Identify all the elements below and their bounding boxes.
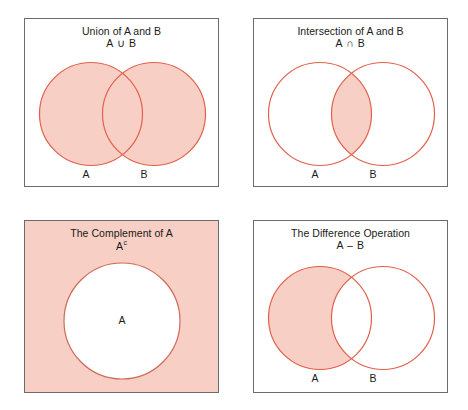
venn-complement-graphic: [25, 221, 220, 394]
venn-diagram-figure: Union of A and B A ∪ B A B Intersection …: [0, 0, 468, 410]
label-set-a: A: [305, 372, 325, 384]
label-set-a: A: [76, 168, 96, 180]
venn-intersection-graphic: [254, 19, 449, 188]
panel-complement: The Complement of A Ac A: [24, 220, 219, 393]
panel-difference: The Difference Operation A – B A B: [253, 220, 448, 393]
label-set-a: A: [305, 168, 325, 180]
venn-difference-graphic: [254, 221, 449, 394]
panel-intersection: Intersection of A and B A ∩ B A B: [253, 18, 448, 187]
label-set-a: A: [112, 314, 132, 326]
label-set-b: B: [363, 372, 383, 384]
venn-union-graphic: [25, 19, 220, 188]
union-shaded-circles: [40, 63, 206, 166]
label-set-b: B: [134, 168, 154, 180]
a-minus-b-shaded: [254, 221, 449, 394]
label-set-b: B: [363, 168, 383, 180]
panel-union: Union of A and B A ∪ B A B: [24, 18, 219, 187]
